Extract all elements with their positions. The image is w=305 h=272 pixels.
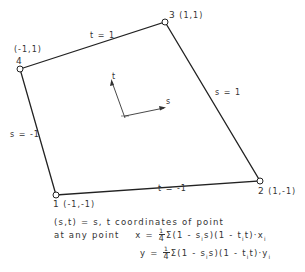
edge-label-t-minus: t = -1 [158, 184, 187, 193]
edge-label-t-plus: t = 1 [90, 31, 115, 40]
y-equation-line: y = 14Σ(1 - sis)(1 - tit)·yi [140, 246, 271, 261]
element-boundary [20, 22, 260, 195]
node-1-label: 1 (-1,-1) [53, 199, 95, 209]
coords-definition: (s,t) = s, t coordinates of point [54, 217, 224, 227]
t-axis [112, 82, 125, 118]
node-2-label: 2 (1,-1) [258, 186, 296, 196]
s-axis-label: s [166, 97, 171, 106]
node-3 [162, 19, 168, 25]
node-2 [257, 178, 263, 184]
node-3-label: 3 (1,1) [169, 10, 203, 20]
x-equation-line: at any point x = 14Σ(1 - sis)(1 - tit)·x… [54, 228, 267, 243]
node-4-coords: (-1,1) [14, 45, 42, 54]
node-4-number: 4 [16, 56, 23, 66]
t-axis-label: t [112, 72, 116, 81]
node-1 [53, 192, 59, 198]
s-arrow-icon [159, 106, 166, 111]
node-4 [17, 66, 23, 72]
edge-label-s-plus: s = 1 [215, 88, 241, 97]
edge-label-s-minus: s = -1 [10, 130, 40, 139]
s-axis [125, 108, 164, 116]
